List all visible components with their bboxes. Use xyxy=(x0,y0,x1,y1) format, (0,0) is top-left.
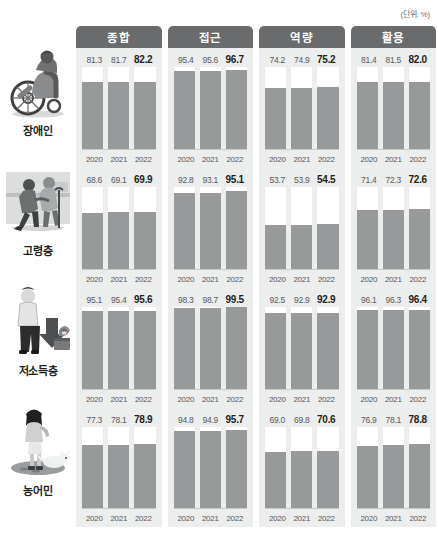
bar-track[interactable] xyxy=(174,307,195,389)
year-tick-label: 2020 xyxy=(357,275,382,284)
year-tick-label: 2021 xyxy=(198,514,223,523)
bar-fill xyxy=(265,88,286,149)
bar-track[interactable] xyxy=(108,67,129,149)
bar-track[interactable] xyxy=(200,187,221,269)
value-label: 96.3 xyxy=(381,295,406,305)
bar-fill xyxy=(226,191,247,269)
value-label: 69.8 xyxy=(290,415,315,425)
bar-track[interactable] xyxy=(383,67,404,149)
year-tick-label: 2020 xyxy=(82,155,107,164)
bar-block-장애인-종합: 81.381.782.2202020212022 xyxy=(76,48,162,168)
bar-fill xyxy=(200,308,221,389)
bar-track[interactable] xyxy=(108,427,129,508)
bar-block-장애인-접근: 95.495.696.7202020212022 xyxy=(168,48,254,168)
bar-track[interactable] xyxy=(265,67,286,149)
value-label: 69.0 xyxy=(265,415,290,425)
bar-track[interactable] xyxy=(134,307,155,389)
bar-track[interactable] xyxy=(82,307,103,389)
year-tick-label: 2021 xyxy=(381,275,406,284)
bar-fill xyxy=(200,431,221,508)
bar-track[interactable] xyxy=(317,427,338,508)
bar-track[interactable] xyxy=(291,307,312,389)
bar-track[interactable] xyxy=(357,187,378,269)
bar-block-농어민-접근: 94.894.995.7202020212022 xyxy=(168,408,254,527)
value-label-latest: 95.1 xyxy=(223,174,248,185)
year-axis-row: 202020212022 xyxy=(265,390,339,408)
bar-track[interactable] xyxy=(82,67,103,149)
bar-track[interactable] xyxy=(265,307,286,389)
bar-row xyxy=(174,427,248,509)
bar-track[interactable] xyxy=(409,187,430,269)
bar-block-장애인-역량: 74.274.975.2202020212022 xyxy=(259,48,345,168)
bar-track[interactable] xyxy=(82,427,103,508)
bar-track[interactable] xyxy=(174,187,195,269)
bar-track[interactable] xyxy=(108,187,129,269)
bar-track[interactable] xyxy=(200,67,221,149)
metric-panel-header: 역량 xyxy=(259,26,345,48)
year-tick-label: 2021 xyxy=(107,395,132,404)
bar-fill xyxy=(317,451,338,508)
bar-track[interactable] xyxy=(226,307,247,389)
bar-fill xyxy=(174,308,195,389)
bar-track[interactable] xyxy=(383,187,404,269)
metric-panel-body: 81.381.782.220202021202268.669.169.92020… xyxy=(76,48,162,527)
bar-fill xyxy=(317,313,338,389)
bar-track[interactable] xyxy=(317,307,338,389)
bar-track[interactable] xyxy=(226,187,247,269)
bar-track[interactable] xyxy=(265,187,286,269)
bar-fill xyxy=(82,445,103,508)
bar-track[interactable] xyxy=(357,67,378,149)
bar-track[interactable] xyxy=(134,67,155,149)
year-tick-label: 2022 xyxy=(406,395,431,404)
bar-track[interactable] xyxy=(200,427,221,508)
bar-track[interactable] xyxy=(383,307,404,389)
bar-row xyxy=(174,307,248,390)
value-label: 98.3 xyxy=(174,295,199,305)
bar-track[interactable] xyxy=(134,427,155,508)
bar-track[interactable] xyxy=(409,67,430,149)
bar-track[interactable] xyxy=(357,427,378,508)
bar-track[interactable] xyxy=(291,427,312,508)
bar-track[interactable] xyxy=(200,307,221,389)
bar-fill xyxy=(357,82,378,149)
bar-track[interactable] xyxy=(108,307,129,389)
year-tick-label: 2021 xyxy=(107,155,132,164)
bar-fill xyxy=(174,431,195,508)
value-label-row: 53.753.954.5 xyxy=(265,168,339,187)
wheelchair-user-icon xyxy=(2,40,74,120)
bar-track[interactable] xyxy=(226,67,247,149)
bar-track[interactable] xyxy=(409,427,430,508)
bar-track[interactable] xyxy=(174,67,195,149)
year-tick-label: 2020 xyxy=(265,395,290,404)
bar-track[interactable] xyxy=(409,307,430,389)
bar-fill xyxy=(226,430,247,508)
bar-track[interactable] xyxy=(174,427,195,508)
value-label-row: 81.381.782.2 xyxy=(82,48,156,67)
bar-fill xyxy=(317,224,338,269)
bar-track[interactable] xyxy=(357,307,378,389)
bar-track[interactable] xyxy=(291,67,312,149)
year-axis-row: 202020212022 xyxy=(82,150,156,168)
bar-track[interactable] xyxy=(317,67,338,149)
value-label-row: 71.472.372.6 xyxy=(357,168,431,187)
bar-track[interactable] xyxy=(265,427,286,508)
low-income-person-icon: ₩ xyxy=(2,280,74,360)
bar-track[interactable] xyxy=(82,187,103,269)
year-tick-label: 2020 xyxy=(174,395,199,404)
value-label-row: 77.378.178.9 xyxy=(82,408,156,427)
bar-track[interactable] xyxy=(226,427,247,508)
value-label: 92.8 xyxy=(174,175,199,185)
bar-fill xyxy=(134,82,155,149)
year-tick-label: 2020 xyxy=(265,155,290,164)
bar-track[interactable] xyxy=(383,427,404,508)
year-axis-row: 202020212022 xyxy=(357,390,431,408)
bar-track[interactable] xyxy=(291,187,312,269)
value-label-latest: 96.4 xyxy=(406,294,431,305)
value-label-latest: 72.6 xyxy=(406,174,431,185)
bar-track[interactable] xyxy=(134,187,155,269)
bar-track[interactable] xyxy=(317,187,338,269)
bar-fill xyxy=(174,71,195,149)
group-label-text: 고령층 xyxy=(23,242,52,258)
year-axis-row: 202020212022 xyxy=(82,390,156,408)
group-label-text: 장애인 xyxy=(23,122,52,138)
